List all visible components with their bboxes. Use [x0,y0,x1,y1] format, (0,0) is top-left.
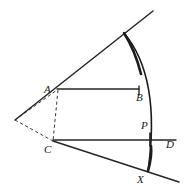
dashed-apex-to-c-line [15,120,53,141]
point-label-b: B [136,92,143,103]
lower-ray [53,141,179,182]
point-label-p: P [141,120,148,131]
arc-thick-top [124,33,141,74]
upper-ray [15,11,153,120]
point-label-x: X [137,174,144,185]
point-label-a: A [44,84,51,95]
point-label-d: D [166,139,174,150]
figure-canvas [0,0,190,194]
point-label-c: C [44,144,51,155]
dashed-a-to-c-line [53,90,58,141]
geometry-figure: A B C P D X [0,0,190,194]
